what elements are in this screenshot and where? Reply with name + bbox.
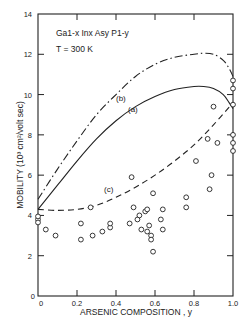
curve-label-b: (b) [116,94,126,103]
y-tick-label: 14 [24,10,32,19]
data-point [231,86,236,91]
data-point [160,207,165,212]
y-tick-label: 12 [24,50,32,59]
data-point [129,175,134,180]
data-point [90,233,95,238]
data-point [139,227,144,232]
data-point [36,220,41,225]
mobility-chart: 00.20.40.60.81.002468101214 Ga1-x Inx As… [0,0,249,328]
data-point [79,221,84,226]
data-point [108,221,113,226]
x-tick-label: 1.0 [228,299,238,308]
data-point [149,237,154,242]
data-point [158,217,163,222]
data-point [231,102,236,107]
y-axis-label: MOBILITY (10³ cm²/volt sec) [15,101,25,209]
x-axis-label: ARSENIC COMPOSITION , y [80,307,193,317]
data-point [205,136,210,141]
data-point [231,141,236,146]
data-point [184,195,189,200]
data-point [151,191,156,196]
data-point [137,213,142,218]
y-tick-label: 8 [28,131,32,140]
data-point [231,149,236,154]
data-point [145,207,150,212]
data-point [88,205,93,210]
data-point [79,237,84,242]
x-tick-label: 0 [39,299,43,308]
data-point [43,227,48,232]
y-tick-label: 0 [31,292,35,301]
axis-ticks: 00.20.40.60.81.002468101214 [24,10,239,308]
y-tick-label: 2 [28,252,32,261]
y-tick-label: 10 [24,91,32,100]
y-tick-label: 6 [28,171,32,180]
data-point [151,249,156,254]
material-annotation: Ga1-x Inx Asy P1-y [56,28,129,38]
data-point [127,221,132,226]
data-point [53,233,58,238]
data-point [211,104,216,109]
data-point [194,159,199,164]
data-point [147,223,152,228]
y-tick-label: 4 [28,211,32,220]
data-point [131,205,136,210]
data-point [145,229,150,234]
data-point [209,173,214,178]
data-point [184,205,189,210]
data-point [100,229,105,234]
curves [38,53,233,210]
temperature-annotation: T = 300 K [56,44,93,54]
curve-label-c: (c) [104,185,114,194]
data-point [207,187,212,192]
data-point [215,141,220,146]
data-point [36,214,41,219]
curve-label-a: (a) [128,105,138,114]
data-point [231,78,236,83]
data-point [160,227,165,232]
data-point [231,132,236,137]
curve-c [38,103,233,211]
curve-b [38,53,233,199]
